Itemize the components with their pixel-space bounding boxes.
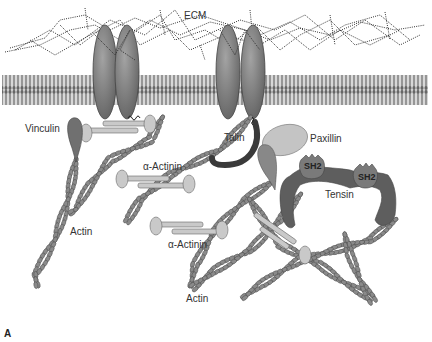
label-ecm: ECM bbox=[184, 10, 206, 21]
label-talin: Talin bbox=[224, 133, 245, 143]
actin-filaments bbox=[31, 114, 398, 306]
panel-label: A bbox=[4, 328, 11, 339]
cell-membrane bbox=[2, 75, 428, 105]
label-sh2-2: SH2 bbox=[358, 173, 376, 182]
vinculin bbox=[68, 118, 83, 162]
label-paxillin: Paxillin bbox=[310, 134, 342, 144]
label-tensin: Tensin bbox=[325, 190, 354, 200]
focal-adhesion-diagram: ECM bbox=[0, 0, 432, 342]
label-sh2-1: SH2 bbox=[304, 162, 322, 171]
label-vinculin: Vinculin bbox=[25, 124, 60, 134]
alpha-actinin-lower bbox=[150, 217, 228, 239]
label-alpha-actinin-2: α-Actinin bbox=[168, 240, 207, 250]
label-actin-2: Actin bbox=[186, 294, 208, 304]
label-alpha-actinin-1: α-Actinin bbox=[143, 162, 182, 172]
actin-filament bbox=[31, 156, 78, 289]
ecm-fibers bbox=[5, 8, 425, 60]
label-actin-1: Actin bbox=[70, 227, 92, 237]
